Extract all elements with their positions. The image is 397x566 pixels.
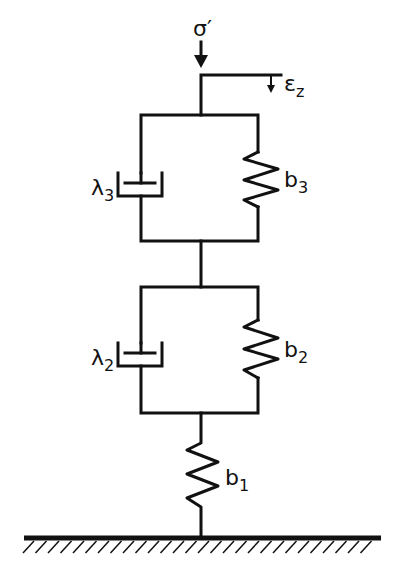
ground-hatch-line — [173, 541, 184, 553]
rheological-model-diagram: σ′ εz λ3 b3 λ2 b — [0, 0, 397, 566]
ground-hatch-line — [323, 541, 334, 553]
ground-hatch-line — [111, 541, 122, 553]
ground-hatch-line — [336, 541, 347, 553]
ground-hatch-line — [236, 541, 247, 553]
ground-hatch-line — [48, 541, 59, 553]
spring-2-label: b2 — [284, 337, 308, 367]
ground-hatch-line — [223, 541, 234, 553]
ground-hatch-line — [261, 541, 272, 553]
dashpot-3-label: λ3 — [91, 175, 114, 205]
ground-hatch-line — [136, 541, 147, 553]
ground-support-icon — [23, 538, 381, 553]
strain-label: εz — [284, 71, 304, 101]
spring-3-icon — [244, 152, 278, 207]
strain-arrow-icon — [267, 75, 275, 93]
ground-hatch-line — [98, 541, 109, 553]
ground-hatch-line — [298, 541, 309, 553]
spring-1-icon — [187, 413, 218, 538]
spring-2-icon — [244, 320, 278, 378]
ground-hatch-line — [73, 541, 84, 553]
ground-hatch-line — [161, 541, 172, 553]
spring-3-label: b3 — [284, 167, 308, 197]
ground-hatch-line — [123, 541, 134, 553]
ground-hatch-line — [61, 541, 72, 553]
ground-hatch-line — [198, 541, 209, 553]
top-plate — [201, 75, 281, 115]
stress-label: σ′ — [193, 16, 212, 41]
stress-arrow-icon — [194, 42, 208, 68]
ground-hatch-line — [36, 541, 47, 553]
dashpot-2-icon — [118, 343, 162, 366]
kelvin-unit-2 — [118, 287, 278, 413]
ground-hatch-line — [348, 541, 359, 553]
ground-hatch-line — [361, 541, 372, 553]
ground-hatch-line — [273, 541, 284, 553]
series-spring-1 — [187, 413, 218, 538]
ground-hatch-line — [211, 541, 222, 553]
ground-hatch-line — [148, 541, 159, 553]
ground-hatch-line — [311, 541, 322, 553]
ground-hatch-line — [23, 541, 34, 553]
dashpot-3-icon — [118, 173, 162, 196]
kelvin-unit-3 — [118, 115, 278, 241]
ground-hatch-line — [86, 541, 97, 553]
spring-1-label: b1 — [225, 465, 249, 495]
ground-hatch-line — [286, 541, 297, 553]
ground-hatch-line — [186, 541, 197, 553]
dashpot-2-label: λ2 — [91, 345, 114, 375]
ground-hatch-line — [248, 541, 259, 553]
